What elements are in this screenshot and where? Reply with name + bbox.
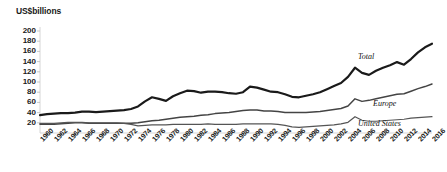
series-label-united-states: United States — [358, 119, 401, 128]
series-label-total: Total — [358, 52, 374, 61]
series-label-europe: Europe — [373, 99, 396, 108]
